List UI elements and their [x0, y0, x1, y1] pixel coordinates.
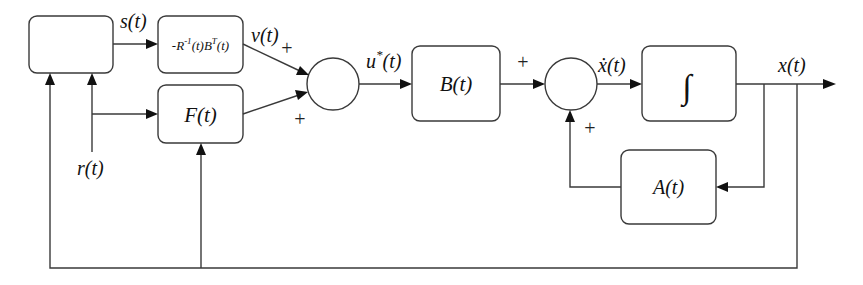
arrowhead	[630, 79, 642, 89]
arrowhead	[565, 110, 575, 122]
feedforward-label: F(t)	[183, 103, 217, 127]
label-u-star: u*(t)	[366, 47, 402, 73]
gain-label: -R-1(t)BT(t)	[172, 36, 229, 53]
arrowhead	[45, 73, 55, 85]
signal-f-line	[243, 95, 299, 114]
label-s: s(t)	[120, 10, 147, 33]
state-matrix-label: A(t)	[651, 176, 684, 199]
block-controller-input	[29, 16, 113, 73]
sum2-sign-left: +	[517, 51, 528, 73]
arrowhead	[146, 39, 158, 49]
arrowhead	[295, 90, 308, 100]
arrowhead	[146, 109, 158, 119]
summing-junction-2	[545, 58, 597, 110]
arrowhead	[400, 79, 412, 89]
output-arrowhead	[823, 79, 836, 89]
label-x: x(t)	[777, 54, 806, 77]
sum2-sign-bottom: +	[584, 117, 595, 139]
label-x-dot: ẋ(t)	[597, 54, 626, 77]
label-r: r(t)	[77, 157, 104, 180]
summing-junction-1	[307, 58, 359, 110]
sum1-sign-top: +	[281, 37, 292, 59]
label-v: v(t)	[251, 24, 279, 47]
arrowhead	[196, 143, 206, 155]
arrowhead	[87, 73, 97, 85]
arrowhead	[716, 182, 728, 192]
arrowhead	[533, 79, 545, 89]
block-diagram: -R-1(t)BT(t) F(t) B(t) ∫ A(t) s(t) v(	[0, 0, 863, 285]
sum1-sign-bottom: +	[294, 108, 305, 130]
input-matrix-label: B(t)	[440, 72, 473, 96]
